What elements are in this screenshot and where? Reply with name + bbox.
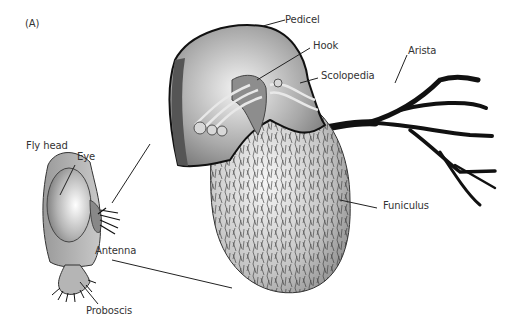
fly-head-shape: [43, 153, 120, 302]
label-arista: Arista: [408, 45, 436, 56]
label-proboscis: Proboscis: [86, 305, 132, 316]
panel-label: (A): [25, 18, 39, 29]
proboscis-shape: [59, 265, 90, 294]
label-funiculus: Funiculus: [383, 200, 429, 211]
label-hook: Hook: [313, 40, 338, 51]
label-fly-head: Fly head: [26, 140, 68, 151]
label-antenna: Antenna: [95, 245, 136, 256]
label-scolopedia: Scolopedia: [321, 70, 375, 81]
fly-antenna-diagram: [0, 0, 520, 331]
label-pedicel: Pedicel: [285, 14, 320, 25]
arista-shape: [325, 77, 495, 205]
eye-shape: [47, 168, 91, 242]
label-eye: Eye: [77, 151, 95, 162]
